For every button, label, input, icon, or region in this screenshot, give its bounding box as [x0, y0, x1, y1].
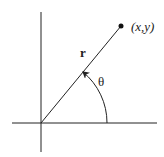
polar-coordinates-diagram: (x,y) r θ [0, 0, 164, 157]
radius-label: r [80, 45, 86, 60]
angle-label: θ [98, 74, 104, 89]
point-marker [119, 24, 124, 29]
radius-line [41, 26, 121, 123]
point-label: (x,y) [131, 19, 154, 34]
